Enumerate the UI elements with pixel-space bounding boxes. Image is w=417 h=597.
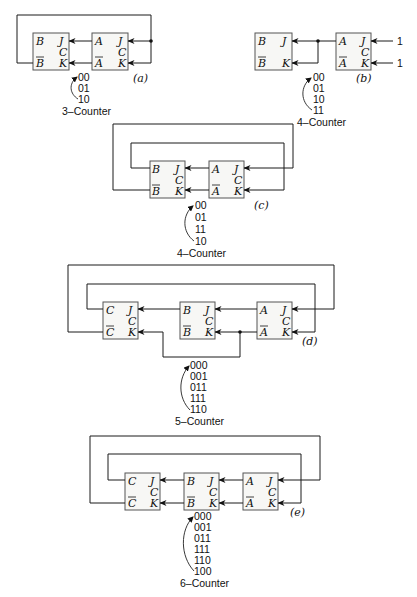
cycle-arrow-icon <box>71 77 78 99</box>
state: 10 <box>78 93 90 105</box>
caption: 4–Counter <box>177 247 227 259</box>
pin-q: B <box>35 35 44 48</box>
cycle-arrow-icon <box>183 517 194 571</box>
diagram-c-4-counter: B B J C K A A J C K 00 01 11 10 4–Counte… <box>113 124 293 259</box>
state: 10 <box>195 235 207 247</box>
diagram-b-4-counter: B B J K A A J C K 1 1 00 01 10 11 4–Coun… <box>255 33 403 128</box>
pin-k: K <box>360 57 370 70</box>
pin-q: C <box>106 304 115 317</box>
pin-q: A <box>211 163 220 176</box>
pin-q: A <box>338 35 347 48</box>
pin-k: K <box>174 185 184 198</box>
pin-q: A <box>259 304 268 317</box>
figure-tag: (c) <box>254 199 269 212</box>
pin-qbar: A <box>259 326 268 339</box>
input-constant: 1 <box>397 35 403 47</box>
figure-tag: (d) <box>302 335 318 348</box>
figure-tag: (e) <box>290 506 305 519</box>
pin-q: B <box>151 163 160 176</box>
pin-q: B <box>186 475 195 488</box>
cycle-arrow-icon <box>303 78 312 110</box>
pin-q: B <box>182 304 191 317</box>
caption: 4–Counter <box>297 116 347 128</box>
pin-k: K <box>233 185 243 198</box>
pin-q: C <box>128 475 137 488</box>
state: 00 <box>195 199 207 211</box>
counter-diagrams-figure: B B J C K A A J C K 00 01 10 3–Counter (… <box>0 0 417 597</box>
diagram-a-3-counter: B B J C K A A J C K 00 01 10 3–Counter (… <box>17 15 153 117</box>
state: 100 <box>194 565 212 577</box>
pin-k: K <box>117 57 127 70</box>
pin-q: B <box>257 35 266 48</box>
state: 11 <box>313 104 324 116</box>
pin-qbar: B <box>182 326 191 339</box>
state: 110 <box>190 403 207 415</box>
pin-k: K <box>281 326 291 339</box>
pin-k: K <box>127 326 137 339</box>
cycle-arrow-icon <box>185 206 194 241</box>
figure-tag: (b) <box>356 72 372 85</box>
diagram-e-6-counter: C C J C K B B J C K A A J C K 000 001 01… <box>90 436 320 589</box>
caption: 3–Counter <box>62 105 112 117</box>
pin-k: K <box>58 57 68 70</box>
pin-k: K <box>204 326 214 339</box>
pin-qbar: B <box>35 57 44 70</box>
pin-q: A <box>245 475 254 488</box>
state: 01 <box>195 211 207 223</box>
pin-qbar: C <box>128 497 137 510</box>
input-constant: 1 <box>397 57 403 69</box>
figure-tag: (a) <box>133 72 148 85</box>
pin-qbar: A <box>338 57 347 70</box>
pin-k: K <box>149 497 159 510</box>
caption: 6–Counter <box>180 577 230 589</box>
caption: 5–Counter <box>175 415 225 427</box>
pin-qbar: A <box>245 497 254 510</box>
pin-k: K <box>208 497 218 510</box>
cycle-arrow-icon <box>181 366 190 410</box>
pin-k: K <box>281 57 291 70</box>
pin-qbar: B <box>257 57 266 70</box>
diagram-d-5-counter: C C J C K B B J C K A A J C K 000 001 01… <box>68 265 334 427</box>
state: 11 <box>195 223 206 235</box>
pin-q: A <box>94 35 103 48</box>
pin-j: J <box>280 35 287 48</box>
pin-k: K <box>267 497 277 510</box>
pin-qbar: C <box>106 326 115 339</box>
pin-qbar: A <box>211 185 220 198</box>
pin-qbar: B <box>186 497 195 510</box>
pin-qbar: B <box>151 185 160 198</box>
pin-qbar: A <box>94 57 103 70</box>
